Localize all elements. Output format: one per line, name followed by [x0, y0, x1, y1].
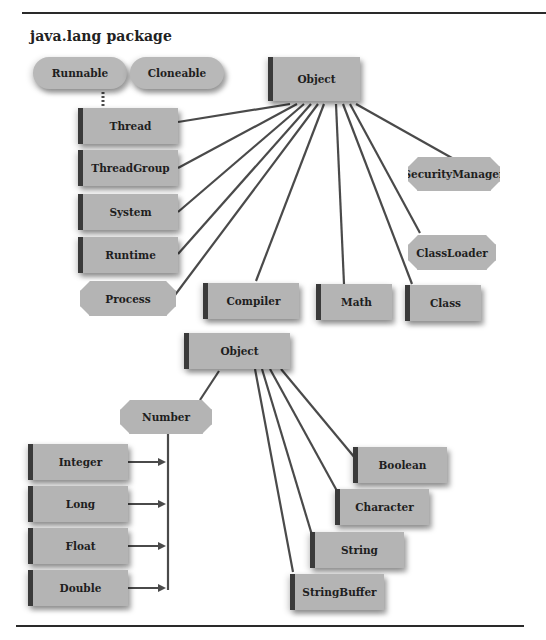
long-node: Long: [28, 486, 128, 522]
process-node: Process: [80, 281, 176, 316]
threadgroup-node: ThreadGroup: [78, 150, 178, 186]
float-node: Float: [28, 528, 128, 564]
system-node: System: [78, 194, 178, 230]
classloader-node: ClassLoader: [408, 235, 496, 270]
object-node-bottom: Object: [184, 333, 290, 369]
boolean-node: Boolean: [353, 447, 447, 483]
securitymanager-node: SecurityManager: [408, 157, 500, 191]
math-node: Math: [316, 284, 392, 320]
double-node: Double: [28, 570, 128, 606]
integer-node: Integer: [28, 444, 128, 480]
character-node: Character: [335, 489, 429, 525]
string-node: String: [310, 532, 404, 568]
stringbuffer-node: StringBuffer: [290, 574, 384, 610]
cloneable-interface: Cloneable: [130, 57, 224, 89]
runnable-interface: Runnable: [33, 57, 127, 89]
object-node-top: Object: [268, 57, 360, 101]
compiler-node: Compiler: [203, 283, 299, 319]
number-node: Number: [120, 400, 212, 434]
thread-node: Thread: [78, 108, 178, 144]
class-node: Class: [405, 285, 481, 321]
runtime-node: Runtime: [78, 237, 178, 273]
